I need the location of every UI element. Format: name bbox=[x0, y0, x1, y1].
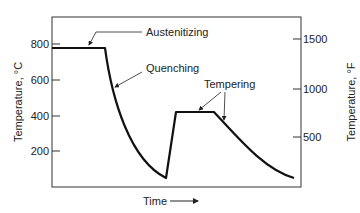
right-tick-1500: 1500 bbox=[303, 33, 327, 45]
left-axis-label: Temperature, °C bbox=[12, 62, 24, 142]
austenitizing-pointer bbox=[89, 32, 142, 45]
right-axis-label: Temperature, °F bbox=[345, 62, 357, 141]
heat-treatment-chart: 800 600 400 200 1500 1000 500 Temperatur… bbox=[0, 0, 360, 213]
annotation-austenitizing: Austenitizing bbox=[146, 26, 208, 38]
left-tick-800: 800 bbox=[31, 38, 49, 50]
tempering-pointer-plateau bbox=[199, 92, 221, 110]
quenching-pointer bbox=[115, 72, 142, 87]
left-axis: 800 600 400 200 bbox=[31, 38, 60, 157]
left-tick-400: 400 bbox=[31, 110, 49, 122]
left-tick-600: 600 bbox=[31, 74, 49, 86]
annotation-quenching: Quenching bbox=[146, 62, 199, 74]
right-axis: 1500 1000 500 bbox=[293, 33, 327, 143]
left-tick-200: 200 bbox=[31, 145, 49, 157]
x-axis-label: Time bbox=[143, 195, 167, 207]
annotation-tempering: Tempering bbox=[204, 78, 255, 90]
right-tick-500: 500 bbox=[303, 131, 321, 143]
right-tick-1000: 1000 bbox=[303, 83, 327, 95]
tempering-pointer-cooling bbox=[224, 92, 225, 120]
